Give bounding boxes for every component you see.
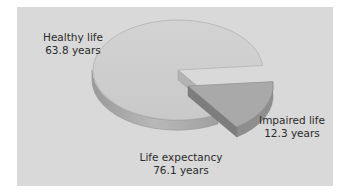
label-total-name: Life expectancy	[138, 151, 224, 164]
label-total-value: 76.1 years	[138, 164, 224, 177]
label-life-expectancy: Life expectancy 76.1 years	[138, 151, 224, 177]
label-healthy-name: Healthy life	[40, 31, 106, 44]
label-healthy-value: 63.8 years	[40, 44, 106, 57]
label-impaired-name: Impaired life	[258, 114, 326, 127]
label-healthy-life: Healthy life 63.8 years	[40, 31, 106, 57]
label-impaired-life: Impaired life 12.3 years	[258, 114, 326, 140]
label-impaired-value: 12.3 years	[258, 127, 326, 140]
